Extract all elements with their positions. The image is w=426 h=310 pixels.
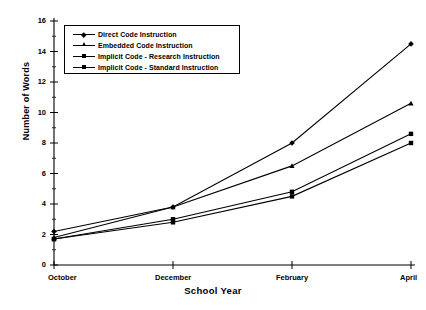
legend-item-label: Embedded Code Instruction bbox=[98, 42, 193, 49]
data-point-marker bbox=[52, 237, 56, 241]
data-point-marker bbox=[290, 190, 294, 194]
data-point-marker bbox=[51, 229, 57, 235]
data-point-marker bbox=[289, 163, 294, 168]
legend-marker-square-icon bbox=[73, 52, 95, 61]
legend-marker-triangle-icon bbox=[73, 41, 95, 50]
legend-item[interactable]: Embedded Code Instruction bbox=[73, 40, 239, 51]
legend-item-label: Implicit Code - Research Instruction bbox=[98, 53, 220, 60]
legend-item-label: Direct Code Instruction bbox=[98, 31, 177, 38]
legend: Direct Code Instruction Embedded Code In… bbox=[64, 25, 240, 74]
legend-item[interactable]: Direct Code Instruction bbox=[73, 29, 239, 40]
legend-item[interactable]: Implicit Code - Research Instruction bbox=[73, 51, 239, 62]
series-line bbox=[54, 103, 411, 237]
legend-item-label: Implicit Code - Standard Instruction bbox=[98, 64, 218, 71]
data-point-marker bbox=[171, 220, 175, 224]
legend-marker-square-icon bbox=[73, 63, 95, 72]
data-point-marker bbox=[409, 132, 413, 136]
series-2 bbox=[51, 101, 413, 240]
data-point-marker bbox=[408, 101, 413, 106]
legend-item[interactable]: Implicit Code - Standard Instruction bbox=[73, 62, 239, 73]
data-point-marker bbox=[290, 194, 294, 198]
line-chart: Number of Words School Year 024681012141… bbox=[0, 0, 426, 310]
series-4 bbox=[52, 141, 413, 241]
series-line bbox=[54, 143, 411, 239]
legend-marker-diamond-icon bbox=[73, 30, 95, 39]
data-point-marker bbox=[409, 141, 413, 145]
